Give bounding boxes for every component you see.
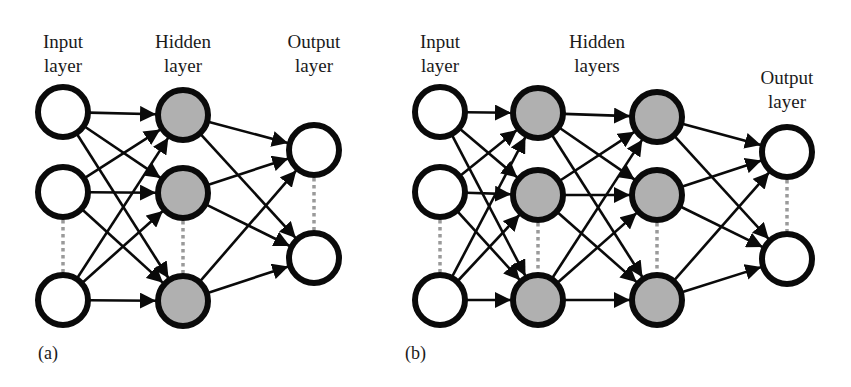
label-line-2: layers (569, 54, 625, 78)
connection-arrow (560, 132, 635, 181)
connection-arrow (208, 122, 288, 143)
input-node (38, 275, 88, 325)
connection-arrow (564, 114, 630, 116)
connection-arrow (89, 113, 156, 115)
hidden-2-node (632, 92, 682, 142)
hidden-2-node (632, 275, 682, 325)
label-line-1: Hidden (155, 30, 211, 54)
neural-network-figure: Input layer Hidden layer Output layer In… (0, 0, 851, 387)
panel-b-output-layer-label: Output layer (761, 66, 814, 114)
panel-b-hidden-layers-label: Hidden layers (569, 30, 625, 78)
input-node (415, 167, 465, 217)
label-line-1: Input (43, 30, 83, 54)
hidden-node (158, 90, 208, 140)
label-line-1: Input (420, 30, 460, 54)
connection-arrow (89, 192, 156, 193)
panel-a-hidden-layer-label: Hidden layer (155, 30, 211, 78)
panel-a-caption: (a) (38, 343, 58, 364)
panel-b-group (415, 87, 812, 325)
hidden-node (158, 168, 208, 218)
output-node (289, 125, 339, 175)
connection-arrow (208, 158, 289, 184)
connection-arrow (466, 193, 511, 194)
hidden-1-node (513, 275, 563, 325)
connection-arrow (682, 160, 762, 186)
panel-b-caption: (b) (405, 343, 426, 364)
connection-arrow (682, 267, 761, 292)
output-node (762, 234, 812, 284)
hidden-2-node (632, 170, 682, 220)
output-node (762, 127, 812, 177)
panel-a-output-layer-label: Output layer (288, 30, 341, 78)
input-node (38, 167, 88, 217)
hidden-1-node (513, 170, 563, 220)
panel-b-edges (452, 112, 769, 300)
label-line-2: layer (761, 90, 814, 114)
panel-a-group (38, 87, 339, 326)
label-line-2: layer (288, 54, 341, 78)
label-line-1: Output (288, 30, 341, 54)
label-line-1: Hidden (569, 30, 625, 54)
connection-arrow (682, 124, 761, 145)
input-node (38, 87, 88, 137)
panel-a-nodes (38, 87, 339, 326)
input-node (415, 275, 465, 325)
input-node (415, 87, 465, 137)
label-line-2: layer (155, 54, 211, 78)
connection-arrow (559, 128, 634, 180)
hidden-1-node (513, 88, 563, 138)
panel-b-nodes (415, 87, 812, 325)
panel-a-input-layer-label: Input layer (43, 30, 83, 78)
label-line-1: Output (761, 66, 814, 90)
connection-arrow (208, 266, 289, 292)
label-line-2: layer (43, 54, 83, 78)
panel-b-input-layer-label: Input layer (420, 30, 460, 78)
label-line-2: layer (420, 54, 460, 78)
output-node (289, 233, 339, 283)
hidden-node (158, 276, 208, 326)
connection-arrow (89, 300, 156, 301)
